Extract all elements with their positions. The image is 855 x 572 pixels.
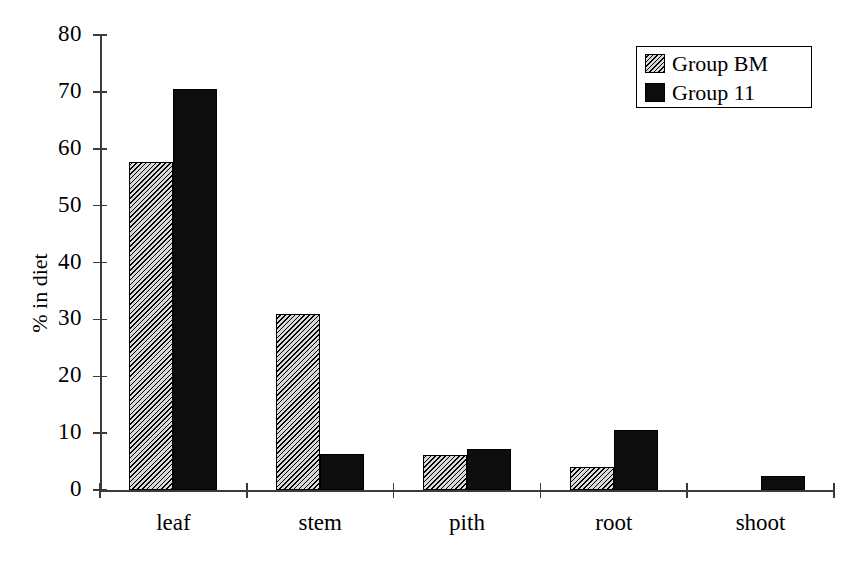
bar-leaf-group-bm <box>129 162 173 490</box>
bar-pith-group-bm <box>423 455 467 490</box>
legend-item-group-11: Group 11 <box>645 78 811 107</box>
y-axis-tick-label: 30 <box>22 306 82 329</box>
y-axis-tick <box>93 91 107 93</box>
y-axis-tick-label: 50 <box>22 193 82 216</box>
x-axis-label-pith: pith <box>387 510 547 536</box>
bar-leaf-group-11 <box>173 89 217 490</box>
bar-root-group-bm <box>570 467 614 490</box>
x-axis-tick <box>686 483 688 498</box>
y-axis-tick-label: 60 <box>22 136 82 159</box>
y-axis-tick <box>93 148 107 150</box>
y-axis-tick <box>93 376 107 378</box>
bar-pith-group-11 <box>467 449 511 490</box>
x-axis-tick <box>540 483 542 498</box>
x-axis-tick <box>833 483 835 498</box>
bar-stem-group-bm <box>276 314 320 490</box>
y-axis-tick-label: 70 <box>22 79 82 102</box>
legend-label-group-bm: Group BM <box>672 53 768 75</box>
y-axis-tick-label: 80 <box>22 22 82 45</box>
legend: Group BM Group 11 <box>636 46 812 108</box>
x-axis-label-shoot: shoot <box>681 510 841 536</box>
legend-swatch-solid-icon <box>645 83 665 102</box>
y-axis-tick-label: 10 <box>22 420 82 443</box>
y-axis-title: % in diet <box>27 213 53 373</box>
legend-item-group-bm: Group BM <box>645 49 811 78</box>
y-axis-tick-label: 40 <box>22 250 82 273</box>
y-axis-tick-label: 0 <box>22 477 82 500</box>
legend-swatch-hatched-icon <box>645 54 665 73</box>
bar-shoot-group-11 <box>761 476 805 490</box>
y-axis-tick <box>93 319 107 321</box>
x-axis-line <box>100 490 835 492</box>
x-axis-tick <box>99 483 101 498</box>
y-axis-tick-label: 20 <box>22 363 82 386</box>
bar-root-group-11 <box>614 430 658 490</box>
x-axis-label-stem: stem <box>240 510 400 536</box>
y-axis-tick <box>93 262 107 264</box>
x-axis-tick <box>246 483 248 498</box>
legend-label-group-11: Group 11 <box>672 82 755 104</box>
y-axis-tick <box>93 205 107 207</box>
x-axis-label-leaf: leaf <box>93 510 253 536</box>
x-axis-label-root: root <box>534 510 694 536</box>
bar-stem-group-11 <box>320 454 364 490</box>
y-axis-tick <box>93 34 107 36</box>
bar-chart: % in diet 01020304050607080 leafstempith… <box>0 0 855 572</box>
x-axis-tick <box>393 483 395 498</box>
y-axis-tick <box>93 432 107 434</box>
